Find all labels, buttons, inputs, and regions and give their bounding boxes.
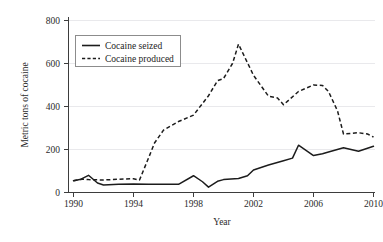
- series-line-cocaine-seized: [74, 145, 374, 187]
- x-tick-label-2002: 2002: [244, 199, 263, 209]
- x-tick-label-2010: 2010: [364, 199, 383, 209]
- y-tick-label-800: 800: [46, 16, 61, 26]
- y-tick-label-400: 400: [46, 102, 61, 112]
- y-tick-label-0: 0: [55, 188, 60, 198]
- y-tick-label-600: 600: [46, 59, 61, 69]
- x-tick-marks: [74, 193, 374, 198]
- y-axis-title: Metric tons of cocaine: [20, 62, 30, 147]
- x-tick-label-1990: 1990: [64, 199, 83, 209]
- x-tick-label-2006: 2006: [304, 199, 323, 209]
- legend-label-cocaine-produced: Cocaine produced: [105, 54, 174, 64]
- x-tick-label-1994: 1994: [124, 199, 143, 209]
- chart-legend: Cocaine seized Cocaine produced: [76, 36, 181, 67]
- y-tick-marks: [64, 21, 69, 193]
- legend-label-cocaine-seized: Cocaine seized: [105, 41, 162, 51]
- chart-figure: 800 600 400 200 0 1990 1994 1998 2002 20…: [0, 0, 383, 242]
- x-axis-title: Year: [213, 217, 231, 227]
- line-chart: 800 600 400 200 0 1990 1994 1998 2002 20…: [0, 0, 383, 242]
- y-tick-label-200: 200: [46, 145, 61, 155]
- x-tick-label-1998: 1998: [184, 199, 203, 209]
